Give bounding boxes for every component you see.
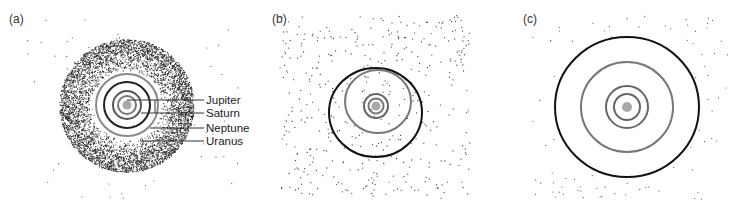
panel-c-orbits	[555, 37, 699, 177]
figure: (a) (b) (c) Jupiter Saturn Neptune Uranu…	[0, 0, 735, 203]
solar-system-diagram: Jupiter Saturn Neptune Uranus	[0, 0, 735, 203]
label-neptune: Neptune	[206, 122, 249, 134]
label-saturn: Saturn	[206, 107, 240, 119]
sun-icon	[372, 102, 381, 111]
label-jupiter: Jupiter	[206, 94, 241, 106]
sun-icon	[622, 102, 632, 112]
label-uranus: Uranus	[206, 135, 243, 147]
sun-icon	[123, 101, 132, 110]
panel-b-orbits	[329, 68, 422, 157]
